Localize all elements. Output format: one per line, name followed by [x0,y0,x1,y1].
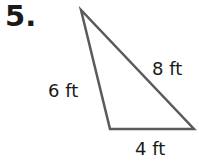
triangle-shape [0,0,199,162]
side-label-bottom: 4 ft [135,140,165,158]
diagram: 5. 6 ft 8 ft 4 ft [0,0,199,162]
side-label-left: 6 ft [48,82,78,100]
side-label-hypotenuse: 8 ft [152,60,182,78]
